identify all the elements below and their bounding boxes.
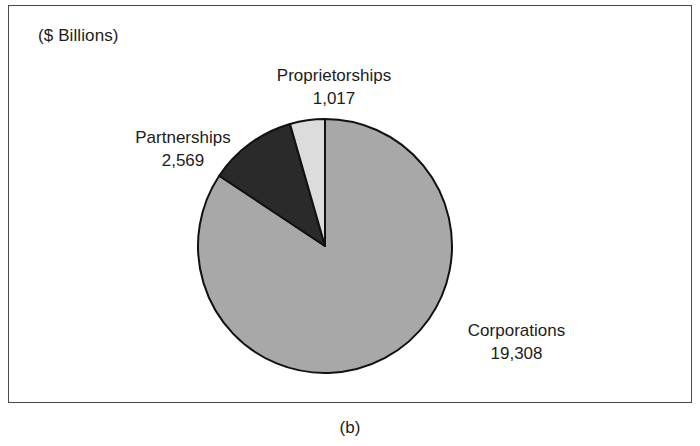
chart-frame: ($ Billions) Proprietorships 1,017 Partn… — [8, 5, 692, 403]
pie-label-corporations: Corporations 19,308 — [444, 319, 589, 365]
pie-label-corporations-value: 19,308 — [444, 342, 589, 365]
pie-label-partnerships: Partnerships 2,569 — [109, 126, 257, 172]
pie-label-corporations-name: Corporations — [444, 319, 589, 342]
figure-container: ($ Billions) Proprietorships 1,017 Partn… — [0, 0, 700, 446]
pie-label-proprietorships-value: 1,017 — [249, 87, 419, 110]
pie-label-proprietorships-name: Proprietorships — [249, 64, 419, 87]
figure-caption: (b) — [0, 418, 700, 438]
pie-label-proprietorships: Proprietorships 1,017 — [249, 64, 419, 110]
pie-label-partnerships-value: 2,569 — [109, 149, 257, 172]
pie-label-partnerships-name: Partnerships — [109, 126, 257, 149]
